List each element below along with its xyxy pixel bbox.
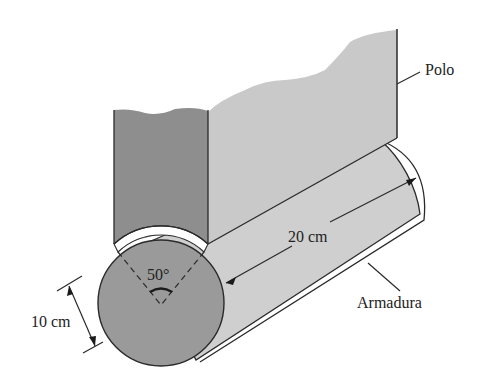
- armature-leader-line: [368, 263, 400, 291]
- length-label: 20 cm: [288, 228, 328, 245]
- pole-armature-diagram: 50° 20 cm 10 cm Polo Armadura: [0, 0, 482, 386]
- angle-label: 50°: [147, 266, 169, 283]
- armature-end-face: [98, 240, 224, 366]
- diameter-arrow-bottom: [89, 336, 96, 346]
- pole-leader-line: [397, 72, 420, 84]
- diagram-canvas: 50° 20 cm 10 cm Polo Armadura: [0, 0, 482, 386]
- pole-dark-face: [114, 108, 208, 244]
- pole-label: Polo: [425, 61, 454, 78]
- armature-label: Armadura: [357, 294, 422, 311]
- diameter-tick-bottom: [83, 342, 103, 353]
- diameter-label: 10 cm: [31, 313, 71, 330]
